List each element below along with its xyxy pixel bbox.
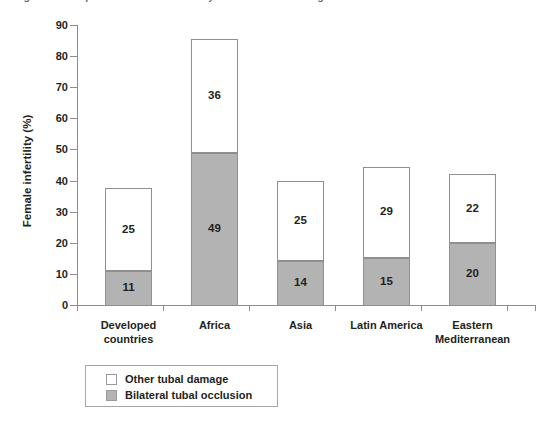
- bar-value-label-other-tubal-damage: 25: [277, 215, 324, 227]
- bar-value-label-other-tubal-damage: 36: [191, 90, 238, 102]
- x-tick-mark: [163, 305, 164, 311]
- legend-item-other-tubal-damage: Other tubal damage: [106, 371, 228, 387]
- bar-value-label-other-tubal-damage: 29: [363, 207, 410, 219]
- y-tick-mark: [70, 149, 77, 150]
- legend-swatch-gray-icon: [106, 390, 117, 401]
- chart-figure: Figure 1. Comparison of tubal infertilit…: [0, 0, 551, 424]
- x-tick-mark: [535, 305, 536, 311]
- legend-item-bilateral-tubal-occlusion: Bilateral tubal occlusion: [106, 387, 252, 403]
- y-axis-line: [77, 25, 78, 306]
- bar-value-label-bilateral-tubal-occlusion: 14: [277, 277, 324, 289]
- y-tick-mark: [70, 25, 77, 26]
- y-tick-mark: [70, 212, 77, 213]
- y-tick-mark: [70, 274, 77, 275]
- legend-label-other-tubal-damage: Other tubal damage: [125, 374, 228, 385]
- y-tick-mark: [70, 305, 77, 306]
- x-tick-mark: [249, 305, 250, 311]
- y-tick-mark: [70, 181, 77, 182]
- bar-value-label-bilateral-tubal-occlusion: 11: [105, 282, 152, 294]
- x-tick-mark: [77, 305, 78, 311]
- x-category-label-line: Mediterranean: [418, 332, 528, 346]
- x-category-label-line: countries: [74, 332, 184, 346]
- bar-value-label-bilateral-tubal-occlusion: 20: [449, 268, 496, 280]
- bar-value-label-other-tubal-damage: 22: [449, 203, 496, 215]
- legend-swatch-white-icon: [106, 374, 117, 385]
- y-tick-label: 90: [24, 20, 68, 31]
- y-axis-label: Female infertility (%): [21, 61, 33, 281]
- plot-area: 0102030405060708090 Female infertility (…: [0, 0, 551, 424]
- legend-label-bilateral-tubal-occlusion: Bilateral tubal occlusion: [125, 390, 252, 401]
- y-tick-mark: [70, 243, 77, 244]
- x-category-label-line: Eastern: [418, 318, 528, 332]
- chart-legend: Other tubal damage Bilateral tubal occlu…: [85, 365, 278, 407]
- y-tick-mark: [70, 87, 77, 88]
- y-tick-mark: [70, 118, 77, 119]
- x-tick-mark: [421, 305, 422, 311]
- y-tick-label: 0: [24, 300, 68, 311]
- bar-value-label-other-tubal-damage: 25: [105, 224, 152, 236]
- x-category-label: EasternMediterranean: [418, 318, 528, 346]
- y-tick-mark: [70, 56, 77, 57]
- x-tick-mark: [335, 305, 336, 311]
- y-tick-label: 80: [24, 51, 68, 62]
- x-tick-mark: [507, 305, 508, 311]
- bar-value-label-bilateral-tubal-occlusion: 49: [191, 223, 238, 235]
- bar-value-label-bilateral-tubal-occlusion: 15: [363, 276, 410, 288]
